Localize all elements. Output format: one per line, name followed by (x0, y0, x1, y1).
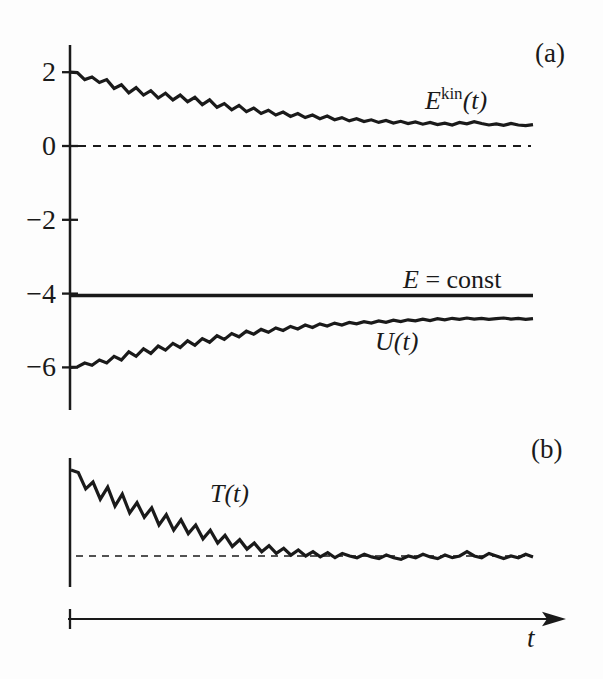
panel-a-tag: (a) (535, 40, 565, 67)
panel-a-y-axis (62, 45, 78, 410)
md-equilibration-figure: 2 0 −2 −4 −6 (a) (b) Ekin(t) E = const U… (0, 0, 603, 679)
ekin-label-arg: (t) (463, 86, 488, 115)
ytick-label-minus4: −4 (0, 280, 56, 308)
ytick-label-minus2: −2 (0, 206, 56, 234)
ytick-label-2: 2 (0, 58, 56, 86)
e-const-rest: = const (419, 265, 502, 294)
e-const-label: E = const (403, 267, 501, 293)
curves-layer (70, 72, 533, 559)
panel-b-axes (68, 458, 561, 629)
u-curve (70, 318, 533, 367)
ekin-curve-label: Ekin(t) (425, 88, 487, 114)
ekin-label-sup: kin (441, 84, 463, 103)
panel-b-tag: (b) (531, 436, 562, 463)
t-curve-label: T(t) (210, 481, 249, 507)
ekin-label-base: E (425, 86, 441, 115)
figure-canvas (0, 0, 603, 679)
u-curve-label: U(t) (375, 329, 418, 355)
x-axis-label: t (527, 625, 535, 652)
e-const-var: E (403, 265, 419, 294)
ytick-label-0: 0 (0, 132, 56, 160)
t-curve (71, 470, 533, 559)
ytick-label-minus6: −6 (0, 353, 56, 381)
